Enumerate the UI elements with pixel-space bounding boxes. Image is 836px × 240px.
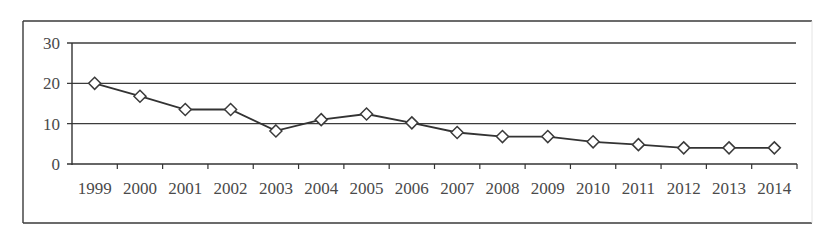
- diamond-marker-icon: [768, 142, 780, 154]
- diamond-marker-icon: [632, 139, 644, 151]
- data-series: [89, 77, 781, 154]
- x-category-label: 2013: [712, 179, 746, 198]
- x-category-label: 2009: [531, 179, 565, 198]
- diamond-marker-icon: [361, 108, 373, 120]
- x-category-label: 2002: [214, 179, 248, 198]
- diamond-marker-icon: [89, 77, 101, 89]
- x-category-label: 2004: [304, 179, 339, 198]
- diamond-marker-icon: [723, 142, 735, 154]
- x-category-label: 2008: [485, 179, 519, 198]
- diamond-marker-icon: [270, 125, 282, 137]
- diamond-marker-icon: [587, 136, 599, 148]
- diamond-marker-icon: [451, 127, 463, 139]
- gridlines: [67, 43, 796, 124]
- x-category-label: 2003: [259, 179, 293, 198]
- x-category-label: 2006: [395, 179, 429, 198]
- x-category-label: 2010: [576, 179, 610, 198]
- x-category-label: 2007: [440, 179, 475, 198]
- y-tick-label: 10: [43, 115, 60, 134]
- diamond-marker-icon: [678, 142, 690, 154]
- x-category-label: 2000: [123, 179, 157, 198]
- diamond-marker-icon: [134, 90, 146, 102]
- y-axis: 0102030: [43, 34, 72, 174]
- y-tick-label: 30: [43, 34, 60, 53]
- diamond-marker-icon: [542, 131, 554, 143]
- x-category-label: 2012: [667, 179, 701, 198]
- diamond-marker-icon: [179, 104, 191, 116]
- line-chart: 0102030 19992000200120022003200420052006…: [0, 0, 836, 240]
- diamond-marker-icon: [225, 104, 237, 116]
- x-category-label: 2005: [350, 179, 384, 198]
- diamond-marker-icon: [406, 117, 418, 129]
- chart-canvas: 0102030 19992000200120022003200420052006…: [0, 0, 836, 240]
- x-category-label: 2001: [168, 179, 202, 198]
- x-category-label: 1999: [78, 179, 112, 198]
- x-axis: 1999200020012002200320042005200620072008…: [67, 164, 797, 198]
- series-line: [95, 83, 775, 148]
- diamond-marker-icon: [496, 131, 508, 143]
- x-category-label: 2014: [757, 179, 792, 198]
- y-tick-label: 20: [43, 74, 60, 93]
- x-category-label: 2011: [622, 179, 655, 198]
- y-tick-label: 0: [52, 155, 61, 174]
